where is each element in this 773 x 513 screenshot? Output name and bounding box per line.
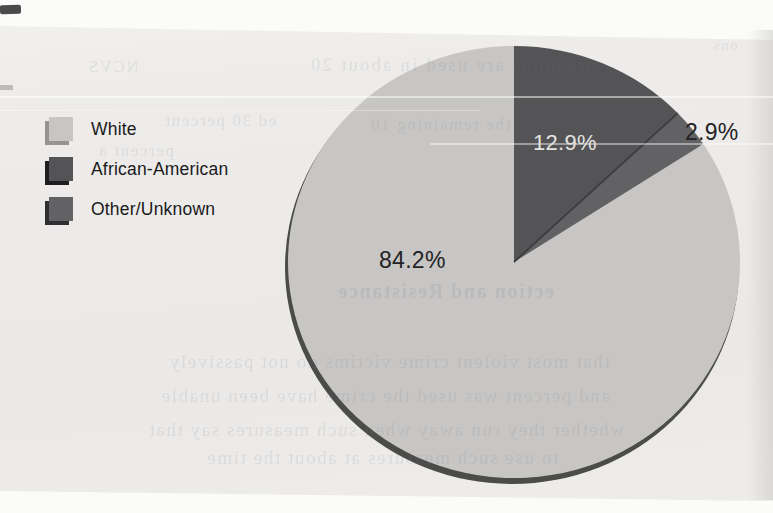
- legend-swatch-other-unknown: [49, 197, 73, 221]
- slice-label-white: 84.2%: [379, 247, 446, 274]
- legend: White African-American Other/Unknown: [49, 117, 228, 237]
- legend-label: Other/Unknown: [91, 199, 215, 220]
- scanned-book-page: 84.2% 12.9% 2.9% White African-American …: [0, 0, 773, 513]
- legend-swatch-white: [49, 117, 73, 141]
- scan-streak: [0, 96, 773, 98]
- legend-item-other-unknown: Other/Unknown: [49, 197, 228, 221]
- slice-label-other-unknown: 2.9%: [685, 119, 739, 146]
- legend-item-white: White: [49, 117, 228, 141]
- legend-label: White: [91, 119, 137, 140]
- slice-label-african-american: 12.9%: [533, 130, 597, 156]
- legend-item-african-american: African-American: [49, 157, 228, 181]
- scan-streak: [0, 110, 480, 111]
- legend-label: African-American: [91, 159, 228, 180]
- legend-swatch-african-american: [49, 157, 73, 181]
